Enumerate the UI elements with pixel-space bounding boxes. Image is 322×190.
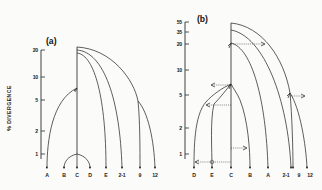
panel-a-ticklabel-10: 10 <box>33 74 39 80</box>
panel-b-branch-outgroup-stem <box>231 23 290 93</box>
panel-b-ticklabel-2: 2 <box>179 125 182 131</box>
panel-a-branch-9-12-stem <box>77 47 138 101</box>
panel-b-taxon-9: 9 <box>298 172 301 178</box>
panel-a-branch-9 <box>138 101 140 168</box>
panel-a-taxon-E: E <box>104 172 108 178</box>
panel-a-ticklabel-20: 20 <box>33 47 39 53</box>
panel-b-taxon-A: A <box>266 172 270 178</box>
panel-b-taxon-C: C <box>229 172 233 178</box>
panel-a-tip-B <box>63 167 65 169</box>
panel-a-ticklabel-5: 5 <box>35 97 38 103</box>
panel-a-ticklabel-2: 2 <box>35 128 38 134</box>
panel-a: (a) % DIVERGENCE 20 10 5 2 1 <box>6 36 158 178</box>
panel-b-ticklabel-1: 1 <box>179 151 182 157</box>
figure-container: (a) % DIVERGENCE 20 10 5 2 1 <box>0 0 322 190</box>
panel-a-label: (a) <box>46 36 57 46</box>
panel-a-branch-D <box>77 154 90 168</box>
panel-b-tip-12 <box>306 167 308 169</box>
panel-a-branch-A <box>47 88 77 168</box>
panel-b-tip-21 <box>290 167 292 169</box>
panel-b-node-marker-22 <box>228 43 231 48</box>
panel-b-taxon-E: E <box>210 172 214 178</box>
panel-a-tip-E <box>105 167 107 169</box>
panel-b-taxon-21: 2-1 <box>282 172 289 178</box>
panel-a-taxon-C: C <box>75 172 79 178</box>
panel-b-tip-A <box>267 167 269 169</box>
panel-b-ticklabel-55: 55 <box>177 19 183 25</box>
panel-a-branch-E <box>77 53 106 168</box>
panel-b-label: (b) <box>197 14 208 24</box>
panel-a-tip-21 <box>121 167 123 169</box>
panel-b-taxon-12: 12 <box>307 172 313 178</box>
panel-b-ticks: 55 35 20 10 5 2 1 <box>177 19 189 157</box>
panel-b: (b) 55 35 20 10 5 2 1 <box>177 14 313 178</box>
panel-b-ticklabel-35: 35 <box>177 29 183 35</box>
panel-a-tip-C <box>76 167 78 169</box>
panel-a-tips <box>46 167 156 169</box>
panel-a-branch-12 <box>138 101 155 168</box>
panel-b-tip-B <box>249 167 251 169</box>
panel-a-taxon-B: B <box>62 172 66 178</box>
panel-b-taxon-B: B <box>248 172 252 178</box>
panel-a-branch-B <box>64 154 77 168</box>
panel-a-taxon-labels: A B C D E 2-1 9 12 <box>45 172 158 178</box>
panel-a-ticklabel-1: 1 <box>35 151 38 157</box>
figure-svg: (a) % DIVERGENCE 20 10 5 2 1 <box>0 0 322 190</box>
panel-a-branch-21 <box>77 50 122 168</box>
panel-a-ticks: 20 10 5 2 1 <box>33 47 45 157</box>
panel-b-branch-B <box>231 84 250 168</box>
panel-a-taxon-21: 2-1 <box>118 172 125 178</box>
panel-b-tips <box>193 167 308 169</box>
panel-a-tip-D <box>89 167 91 169</box>
panel-a-axis-title: % DIVERGENCE <box>6 85 12 131</box>
panel-b-node-marker-9-12 <box>287 93 290 98</box>
panel-a-taxon-A: A <box>45 172 49 178</box>
panel-b-ticklabel-20: 20 <box>177 41 183 47</box>
panel-a-taxon-9: 9 <box>139 172 142 178</box>
panel-b-tip-9 <box>292 167 294 169</box>
panel-a-tip-9 <box>139 167 141 169</box>
panel-a-taxon-D: D <box>88 172 92 178</box>
panel-b-ticklabel-5: 5 <box>179 92 182 98</box>
panel-b-branch-E-stem <box>214 84 231 104</box>
panel-a-tip-A <box>46 167 48 169</box>
panel-b-taxon-D: D <box>192 172 196 178</box>
panel-b-branch-E <box>212 104 215 168</box>
panel-b-ticklabel-10: 10 <box>177 67 183 73</box>
panel-b-branch-D <box>194 102 206 168</box>
panel-a-tip-12 <box>154 167 156 169</box>
panel-b-tip-D <box>193 167 195 169</box>
panel-b-tip-C <box>230 167 232 169</box>
panel-b-taxon-labels: D E C B A 2-1 9 12 <box>192 172 313 178</box>
panel-b-tip-E <box>211 167 213 169</box>
panel-a-taxon-12: 12 <box>152 172 158 178</box>
